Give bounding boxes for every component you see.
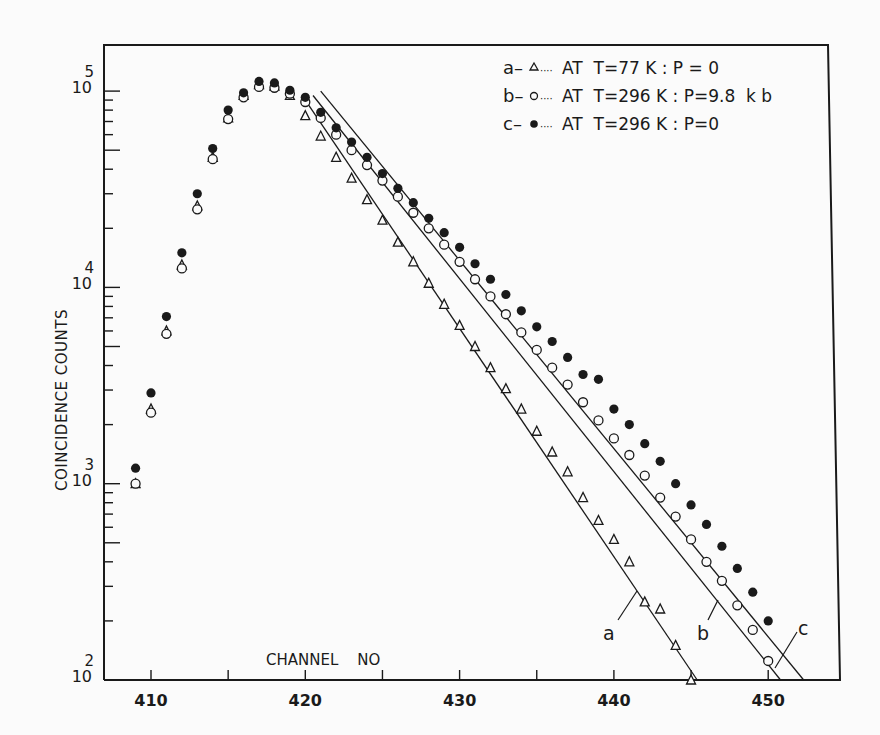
- triangle-marker: [501, 384, 510, 393]
- open-circle-marker: [656, 493, 665, 502]
- triangle-marker: [409, 257, 418, 266]
- legend-dots: ····: [540, 93, 553, 104]
- y-axis-ticks: 102103104105: [72, 63, 120, 686]
- triangle-marker: [517, 404, 526, 413]
- open-circle-marker: [162, 329, 171, 338]
- filled-circle-marker: [285, 86, 294, 95]
- filled-circle-marker: [146, 388, 155, 397]
- filled-circle-marker: [362, 153, 371, 162]
- y-tick-exponent: 3: [84, 456, 94, 474]
- y-axis-label: COINCIDENCE COUNTS: [53, 309, 71, 491]
- filled-circle-marker: [424, 214, 433, 223]
- y-tick-exponent: 4: [84, 259, 94, 277]
- legend-text-b: AT T=296 K : P=9.8 k b: [562, 86, 772, 106]
- x-tick-label: 450: [751, 691, 784, 710]
- triangle-marker: [579, 493, 588, 502]
- open-circle-marker: [517, 328, 526, 337]
- triangle-marker: [424, 278, 433, 287]
- filled-circle-marker: [501, 290, 510, 299]
- legend-item-b: b– ···· AT T=296 K : P=9.8 k b: [503, 85, 772, 106]
- open-circle-marker: [748, 625, 757, 634]
- filled-circle-marker: [578, 370, 587, 379]
- filled-circle-marker: [455, 243, 464, 252]
- fit-line-a: [305, 100, 697, 680]
- filled-circle-marker: [486, 275, 495, 284]
- legend-dots: ····: [540, 65, 553, 76]
- open-circle-marker: [702, 557, 711, 566]
- filled-circle-marker: [208, 144, 217, 153]
- legend-item-c: c– ···· AT T=296 K : P=0: [503, 113, 719, 134]
- triangle-marker: [594, 515, 603, 524]
- triangle-marker: [301, 111, 310, 120]
- filled-circle-marker: [640, 439, 649, 448]
- filled-circle-marker: [517, 306, 526, 315]
- filled-circle-marker: [440, 228, 449, 237]
- open-circle-marker: [764, 656, 773, 665]
- filled-circle-marker: [301, 93, 310, 102]
- filled-circle-marker: [193, 189, 202, 198]
- open-circle-marker: [625, 451, 634, 460]
- filled-circle-marker: [717, 542, 726, 551]
- open-circle-marker: [501, 310, 510, 319]
- open-circle-marker: [532, 345, 541, 354]
- triangle-marker: [486, 363, 495, 372]
- triangle-marker: [455, 320, 464, 329]
- x-tick-label: 430: [443, 691, 476, 710]
- filled-circle-marker: [239, 88, 248, 97]
- filled-circle-marker: [162, 312, 171, 321]
- curve-annotations: abc: [603, 591, 808, 668]
- open-circle-marker: [224, 115, 233, 124]
- legend-text-a: AT T=77 K : P = 0: [562, 58, 719, 78]
- open-circle-marker: [208, 155, 217, 164]
- open-circle-marker: [609, 434, 618, 443]
- log-scatter-chart: 102103104105 410420430440450 abc COINCID…: [0, 0, 880, 735]
- circle-filled-icon: [530, 120, 538, 128]
- filled-circle-marker: [625, 420, 634, 429]
- triangle-marker: [625, 557, 634, 566]
- open-circle-marker: [363, 161, 372, 170]
- annotation-label-c: c: [798, 617, 808, 639]
- open-circle-marker: [579, 398, 588, 407]
- filled-circle-marker: [764, 616, 773, 625]
- filled-circle-marker: [131, 464, 140, 473]
- filled-circle-marker: [470, 259, 479, 268]
- open-circle-marker: [548, 363, 557, 372]
- filled-circle-marker: [224, 106, 233, 115]
- filled-circle-marker: [316, 108, 325, 117]
- fit-line-c: [321, 91, 804, 680]
- triangle-marker: [671, 640, 680, 649]
- open-circle-marker: [409, 208, 418, 217]
- open-circle-marker: [471, 275, 480, 284]
- open-circle-marker: [440, 240, 449, 249]
- filled-circle-marker: [733, 564, 742, 573]
- filled-circle-marker: [609, 404, 618, 413]
- open-circle-marker: [733, 601, 742, 610]
- open-circle-marker: [717, 576, 726, 585]
- plot-border: [104, 45, 840, 680]
- filled-circle-marker: [656, 457, 665, 466]
- filled-circle-marker: [254, 77, 263, 86]
- triangle-marker: [656, 604, 665, 613]
- legend-key-a: a–: [503, 57, 523, 78]
- filled-circle-marker: [748, 588, 757, 597]
- x-tick-label: 420: [289, 691, 322, 710]
- annotation-leader-b: [708, 600, 718, 620]
- filled-circle-marker: [270, 78, 279, 87]
- filled-circle-marker: [409, 198, 418, 207]
- open-circle-marker: [424, 224, 433, 233]
- filled-circle-marker: [347, 137, 356, 146]
- open-circle-marker: [687, 535, 696, 544]
- triangle-marker: [532, 426, 541, 435]
- y-tick-label: 104: [72, 259, 94, 293]
- y-tick-label: 103: [72, 456, 94, 490]
- x-tick-label: 440: [597, 691, 630, 710]
- filled-circle-marker: [594, 375, 603, 384]
- filled-circle-marker: [702, 520, 711, 529]
- triangle-marker: [548, 447, 557, 456]
- x-tick-label: 410: [134, 691, 167, 710]
- circle-open-icon: [531, 93, 538, 100]
- data-points: [131, 77, 773, 684]
- filled-circle-marker: [177, 248, 186, 257]
- open-circle-marker: [193, 205, 202, 214]
- triangle-marker: [316, 131, 325, 140]
